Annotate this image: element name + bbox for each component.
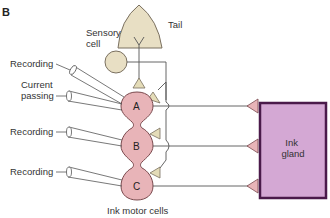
cell-a-label: A [133, 101, 140, 112]
current-passing-label: Current passing [21, 79, 55, 101]
recording-mid-label: Recording [10, 126, 53, 137]
recording-bottom-label: Recording [10, 166, 53, 177]
electrode-tip [67, 127, 72, 137]
sensory-axon-branch-a [158, 82, 166, 90]
electrode-recording-bottom [68, 167, 122, 186]
electrode-recording-mid [68, 127, 122, 146]
ink-gland-circuit-diagram: B Tail Sensory cell A B C Ink gland Reco… [0, 0, 330, 218]
sensory-cell-body [105, 51, 127, 73]
sensory-axon-branch [160, 62, 169, 168]
cell-b-label: B [133, 141, 140, 152]
panel-label: B [2, 6, 10, 18]
sensory-synapse-bottom [150, 167, 160, 178]
electrode-current-passing [68, 91, 122, 110]
ink-motor-cells-label: Ink motor cells [107, 205, 168, 216]
tail-shape [118, 5, 162, 48]
tail-label: Tail [168, 19, 182, 30]
synapse-b [247, 139, 258, 153]
cell-c-label: C [133, 181, 140, 192]
electrode-tip [67, 167, 72, 177]
synapse-c [247, 179, 258, 193]
recording-top-label: Recording [10, 58, 53, 69]
electrode-tip [67, 91, 72, 101]
synapse-a [247, 99, 258, 113]
leader-line [56, 64, 70, 70]
sensory-synapse-top [133, 78, 145, 88]
